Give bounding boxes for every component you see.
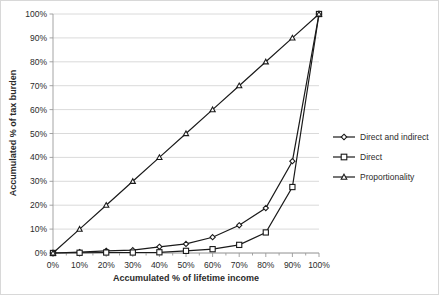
legend-item[interactable]: Direct <box>333 152 383 162</box>
x-tick-label: 30% <box>124 260 141 270</box>
legend-label: Direct and indirect <box>360 132 429 142</box>
y-tick-label: 40% <box>30 152 47 162</box>
y-tick-label: 70% <box>30 81 47 91</box>
data-point-marker <box>237 242 242 247</box>
x-tick-label: 20% <box>98 260 115 270</box>
x-tick-label: 60% <box>204 260 221 270</box>
data-point-marker <box>104 250 109 255</box>
y-tick-label: 0% <box>35 248 48 258</box>
legend-item[interactable]: Direct and indirect <box>333 132 429 142</box>
y-tick-label: 30% <box>30 176 47 186</box>
y-tick-label: 90% <box>30 33 47 43</box>
data-point-marker <box>210 235 215 240</box>
y-tick-label: 80% <box>30 57 47 67</box>
legend-label: Direct <box>360 152 383 162</box>
legend-item[interactable]: Proportionality <box>333 172 415 182</box>
y-tick-label: 100% <box>25 9 47 19</box>
chart-screenshot: 0%10%20%30%40%50%60%70%80%90%100% 0%10%2… <box>0 0 439 295</box>
y-tick-label: 50% <box>30 129 47 139</box>
data-point-marker <box>183 241 188 246</box>
legend: Direct and indirectDirectProportionality <box>333 132 429 182</box>
data-point-marker <box>183 248 188 253</box>
x-tick-label: 80% <box>257 260 274 270</box>
square-marker <box>341 154 347 160</box>
data-point-marker <box>290 159 295 164</box>
x-tick-label: 90% <box>284 260 301 270</box>
y-tick-label: 20% <box>30 200 47 210</box>
data-point-marker <box>130 250 135 255</box>
x-tick-label: 70% <box>231 260 248 270</box>
data-point-marker <box>157 244 162 249</box>
x-axis-title: Accumulated % of lifetime income <box>113 273 259 283</box>
x-tick-label: 0% <box>47 260 60 270</box>
diamond-marker <box>341 134 347 140</box>
x-tick-label: 50% <box>177 260 194 270</box>
data-point-marker <box>263 230 268 235</box>
y-tick-label: 60% <box>30 105 47 115</box>
x-tick-labels-group: 0%10%20%30%40%50%60%70%80%90%100% <box>47 260 330 270</box>
triangle-marker <box>341 174 347 179</box>
data-point-marker <box>157 250 162 255</box>
y-axis-title: Accumulated % of tax burden <box>8 70 18 197</box>
legend-label: Proportionality <box>360 172 415 182</box>
y-tick-label: 10% <box>30 224 47 234</box>
x-tick-label: 100% <box>308 260 330 270</box>
data-point-marker <box>210 247 215 252</box>
data-point-marker <box>290 184 295 189</box>
x-tick-label: 40% <box>151 260 168 270</box>
lorenz-curve-chart: 0%10%20%30%40%50%60%70%80%90%100% 0%10%2… <box>1 1 439 295</box>
chart-container: 0%10%20%30%40%50%60%70%80%90%100% 0%10%2… <box>1 1 439 295</box>
y-tick-labels-group: 0%10%20%30%40%50%60%70%80%90%100% <box>25 9 53 258</box>
x-tick-label: 10% <box>71 260 88 270</box>
data-point-marker <box>77 250 82 255</box>
